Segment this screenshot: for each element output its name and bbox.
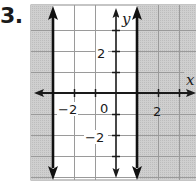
x-tick-label-neg2: −2 (58, 102, 77, 117)
y-tick-label-neg2: −2 (85, 130, 104, 145)
x-tick-label-2: 2 (153, 104, 161, 119)
x-axis-label: x (186, 71, 195, 89)
y-axis-label: y (121, 10, 131, 28)
origin-label: 0 (100, 101, 108, 116)
coordinate-graph: y x −2 0 2 2 −2 (0, 0, 196, 184)
y-tick-label-2: 2 (97, 46, 105, 61)
graph-problem: 3. (0, 0, 196, 184)
